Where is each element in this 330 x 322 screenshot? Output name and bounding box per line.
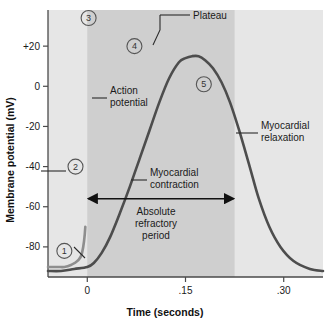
- physiology-chart-figure: +200-20-40-60-80 0.15.30: [0, 0, 330, 322]
- myocardial-contraction-label-line1: Myocardial: [150, 167, 198, 178]
- y-tick-label: +20: [23, 41, 40, 52]
- myocardial-relaxation-label-line1: Myocardial: [261, 120, 309, 131]
- myocardial-contraction-label-line2: contraction: [150, 179, 199, 190]
- y-axis-title: Membrane potential (mV): [4, 97, 16, 222]
- x-tick-label: .15: [179, 285, 193, 296]
- action-potential-label-line1: Action: [110, 85, 138, 96]
- cardiac-action-potential-chart: +200-20-40-60-80 0.15.30: [0, 0, 330, 322]
- x-axis-title: Time (seconds): [127, 306, 204, 318]
- step-marker-label-4: 4: [132, 41, 137, 51]
- x-axis-ticks: 0.15.30: [85, 277, 292, 296]
- x-tick-label: 0: [85, 285, 91, 296]
- plot-shading: [48, 10, 323, 277]
- step-marker-label-1: 1: [62, 246, 67, 256]
- step-marker-label-5: 5: [201, 79, 206, 89]
- absolute-refractory-label-line2: refractory: [135, 218, 177, 229]
- step-marker-label-3: 3: [86, 13, 91, 23]
- y-tick-label: -20: [26, 121, 41, 132]
- absolute-refractory-label-line1: Absolute: [137, 206, 176, 217]
- step-marker-label-2: 2: [73, 162, 78, 172]
- absolute-refractory-label-line3: period: [142, 230, 170, 241]
- x-tick-label: .30: [277, 285, 291, 296]
- plateau-label: Plateau: [193, 10, 227, 21]
- myocardial-relaxation-label-line2: relaxation: [261, 132, 304, 143]
- action-potential-label-line2: potential: [110, 97, 148, 108]
- y-tick-label: -40: [26, 161, 41, 172]
- y-tick-label: 0: [34, 81, 40, 92]
- y-tick-label: -60: [26, 201, 41, 212]
- y-axis-ticks: +200-20-40-60-80: [23, 41, 48, 253]
- y-tick-label: -80: [26, 241, 41, 252]
